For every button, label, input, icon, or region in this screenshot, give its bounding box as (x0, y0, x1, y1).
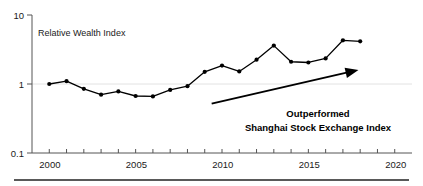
y-tick-label-0.1: 0.1 (11, 148, 24, 159)
x-tick-label-2015: 2015 (299, 159, 320, 170)
data-point-2017 (341, 38, 345, 42)
y-tick-label-10: 10 (13, 10, 24, 21)
data-point-2004 (116, 89, 120, 93)
data-point-2011 (237, 69, 241, 73)
annotation-line-1: Outperformed (286, 108, 350, 119)
x-tick-marks (49, 149, 394, 153)
data-point-2005 (134, 94, 138, 98)
x-tick-label-2010: 2010 (212, 159, 233, 170)
data-point-2002 (82, 87, 86, 91)
data-point-2014 (289, 60, 293, 64)
data-point-2015 (306, 60, 310, 64)
data-point-2012 (254, 58, 258, 62)
chart-figure: 10 1 0.1 2000 2005 2010 2015 2020 Relati… (0, 0, 423, 186)
x-tick-label-2020: 2020 (385, 159, 406, 170)
annotation-line-2: Shanghai Stock Exchange Index (245, 122, 392, 133)
relative-wealth-index-chart: 10 1 0.1 2000 2005 2010 2015 2020 Relati… (0, 0, 423, 186)
data-point-2003 (99, 93, 103, 97)
data-point-2006 (151, 94, 155, 98)
x-tick-label-2000: 2000 (39, 159, 60, 170)
y-tick-label-1: 1 (19, 79, 24, 90)
series-label-relative-wealth-index: Relative Wealth Index (38, 28, 126, 38)
data-point-2018 (358, 39, 362, 43)
data-point-2016 (324, 56, 328, 60)
data-point-2010 (220, 63, 224, 67)
data-point-2000 (47, 82, 51, 86)
data-point-2001 (64, 79, 68, 83)
x-tick-label-2005: 2005 (126, 159, 147, 170)
data-point-2009 (203, 70, 207, 74)
data-point-2007 (168, 88, 172, 92)
data-point-2013 (272, 44, 276, 48)
data-point-2008 (185, 84, 189, 88)
